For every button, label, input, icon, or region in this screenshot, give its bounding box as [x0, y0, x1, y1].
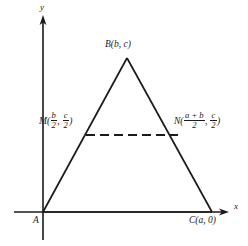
point-m-x-denominator: 2 [51, 121, 57, 130]
x-axis-label: x [234, 202, 238, 211]
point-label-m: M(b2, c2) [39, 111, 73, 130]
point-n-y-fraction: c2 [210, 111, 216, 130]
point-b-close-paren: ) [128, 39, 131, 49]
point-m-y-denominator: 2 [63, 121, 69, 130]
point-n-comma: , [205, 116, 210, 126]
point-n-y-denominator: 2 [210, 121, 216, 130]
point-m-close-paren: ) [69, 116, 72, 126]
point-label-n: N(a + b2, c2) [174, 111, 220, 130]
point-n-x-fraction: a + b2 [184, 111, 205, 130]
segment-bc [127, 58, 212, 212]
point-m-y-fraction: c2 [63, 111, 69, 130]
y-axis-label: y [40, 3, 44, 12]
point-label-a: A [33, 216, 39, 226]
point-n-close-paren: ) [217, 116, 220, 126]
point-m-x-fraction: b2 [51, 111, 57, 130]
point-m-name: M [39, 116, 47, 126]
point-label-c: C(a, 0) [189, 216, 216, 226]
point-label-b: B(b, c) [105, 40, 131, 50]
point-c-close-paren: ) [213, 215, 216, 225]
point-n-x-denominator: 2 [184, 121, 205, 130]
point-m-comma: , [57, 116, 62, 126]
